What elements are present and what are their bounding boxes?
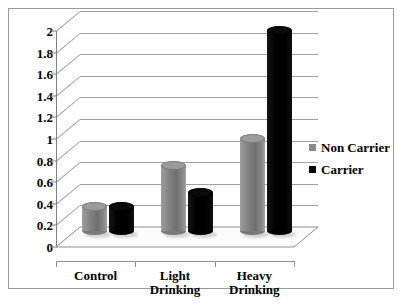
x-axis-category-label: Control <box>56 269 135 283</box>
bar-non-carrier <box>161 161 186 235</box>
bar-non-carrier <box>82 202 107 235</box>
bar-non-carrier <box>240 134 265 235</box>
x-axis-tick-mark <box>215 261 216 267</box>
chart-legend: Non Carrier Carrier <box>309 141 390 185</box>
x-axis-tick-mark <box>135 261 136 267</box>
bar-carrier <box>188 188 213 235</box>
x-axis-line <box>56 261 294 262</box>
bar-carrier <box>267 26 292 235</box>
bar-body <box>161 166 186 231</box>
legend-swatch-non-carrier-icon <box>309 144 316 151</box>
legend-label-carrier: Carrier <box>321 163 364 176</box>
x-axis-category-label: Light Drinking <box>135 269 214 296</box>
chart-frame: 00.20.40.60.811.21.41.61.82 ControlLight… <box>8 8 394 289</box>
bar-carrier <box>109 202 134 235</box>
bar-body <box>240 139 265 231</box>
x-axis-category-label: Heavy Drinking <box>215 269 294 296</box>
legend-item-non-carrier: Non Carrier <box>309 141 390 154</box>
bar-body <box>188 193 213 231</box>
bar-body <box>267 31 292 231</box>
legend-label-non-carrier: Non Carrier <box>321 141 390 154</box>
legend-swatch-carrier-icon <box>309 166 316 173</box>
x-axis-tick-mark <box>294 261 295 267</box>
x-axis-tick-mark <box>56 261 57 267</box>
plot-area: 00.20.40.60.811.21.41.61.82 ControlLight… <box>9 9 393 288</box>
legend-item-carrier: Carrier <box>309 163 390 176</box>
